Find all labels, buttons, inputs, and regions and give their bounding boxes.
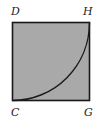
label-H: H <box>82 5 93 18</box>
geometry-diagram: D H C G <box>0 0 101 121</box>
label-G: G <box>84 106 93 119</box>
square-DHGC <box>13 23 90 101</box>
label-C: C <box>11 106 20 119</box>
label-D: D <box>10 5 20 18</box>
